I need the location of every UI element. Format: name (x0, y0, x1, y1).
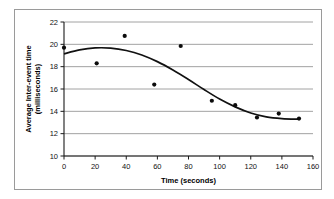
data-point-0 (62, 46, 66, 50)
chart-frame: 020406080100120140160 10121416182022 Tim… (14, 9, 322, 190)
data-points-group (62, 34, 301, 121)
data-point-1 (95, 61, 99, 65)
data-point-9 (297, 116, 301, 120)
y-tick-label-12: 12 (50, 129, 58, 138)
y-tick-label-20: 20 (50, 40, 58, 49)
x-tick-label-20: 20 (91, 162, 99, 171)
scatter-plot-svg: 020406080100120140160 10121416182022 Tim… (15, 10, 321, 189)
tick-marks-group (61, 22, 314, 160)
x-tick-label-140: 140 (276, 162, 289, 171)
y-tick-label-18: 18 (50, 62, 58, 71)
y-tick-label-16: 16 (50, 85, 58, 94)
y-axis-title-line1: Average Inter-event time (24, 45, 33, 132)
x-tick-labels-group: 020406080100120140160 (62, 162, 319, 171)
data-point-5 (210, 99, 214, 103)
y-tick-label-14: 14 (50, 107, 58, 116)
y-axis-title-line2: (milliseconds) (33, 63, 42, 114)
data-point-4 (179, 44, 183, 48)
gridlines-group (64, 22, 313, 156)
x-tick-label-100: 100 (213, 162, 226, 171)
x-tick-label-80: 80 (184, 162, 192, 171)
chart-figure: 020406080100120140160 10121416182022 Tim… (0, 0, 334, 199)
data-point-3 (152, 82, 156, 86)
y-tick-label-22: 22 (50, 18, 58, 27)
y-tick-labels-group: 10121416182022 (50, 18, 58, 161)
y-tick-label-10: 10 (50, 152, 58, 161)
x-tick-label-160: 160 (307, 162, 320, 171)
trend-curve-path (64, 48, 299, 119)
data-point-7 (255, 115, 259, 119)
x-axis-title: Time (seconds) (161, 176, 216, 185)
x-tick-label-0: 0 (62, 162, 66, 171)
data-point-6 (233, 103, 237, 107)
data-point-2 (123, 34, 127, 38)
x-tick-label-120: 120 (244, 162, 257, 171)
x-tick-label-60: 60 (153, 162, 161, 171)
data-point-8 (277, 111, 281, 115)
x-tick-label-40: 40 (122, 162, 130, 171)
